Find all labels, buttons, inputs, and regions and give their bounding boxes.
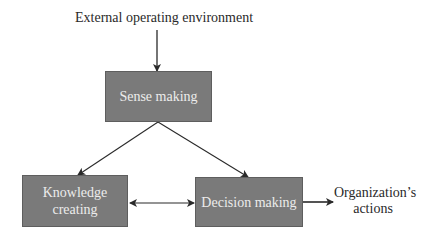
output-label-line-2: actions [334,201,412,217]
node-decision-making-label: Decision making [201,194,296,211]
node-knowledge-creating: Knowledge creating [22,175,128,227]
output-label: Organization’s actions [334,185,412,217]
node-knowledge-creating-label-2: creating [52,201,97,218]
node-sense-making: Sense making [105,71,212,122]
arrow-sense-to-decision [158,122,248,177]
node-decision-making: Decision making [195,177,303,227]
diagram-canvas: External operating environment Sense mak… [0,0,429,238]
input-label: External operating environment [75,10,240,26]
node-sense-making-label: Sense making [119,88,197,105]
arrow-sense-to-knowledge [78,122,158,175]
node-knowledge-creating-label-1: Knowledge [43,184,108,201]
output-label-line-1: Organization’s [334,185,412,201]
